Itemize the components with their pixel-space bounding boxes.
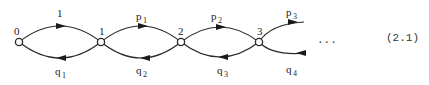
node-label-3: 3	[257, 25, 263, 37]
node-label-1: 1	[99, 25, 105, 37]
edge-3-out-forward	[259, 22, 304, 42]
arrow-right-icon	[56, 23, 66, 29]
node-0	[15, 38, 22, 45]
edge-label-backward-0-sub: 1	[62, 71, 66, 80]
node-3	[255, 38, 262, 45]
edge-3-2-backward	[181, 42, 259, 57]
edge-1-2-forward	[101, 26, 181, 42]
node-label-2: 2	[178, 25, 184, 37]
edge-label-backward-3: q	[286, 63, 292, 75]
node-label-0: 0	[14, 25, 20, 37]
edge-label-forward-1-sub: 1	[143, 16, 147, 25]
arrow-left-icon	[296, 50, 306, 56]
edge-in-3-backward	[259, 42, 306, 54]
continuation-ellipsis: ...	[317, 34, 337, 46]
edge-label-forward-0: 1	[57, 7, 63, 19]
edge-label-forward-3: p	[286, 6, 292, 18]
node-2	[177, 38, 184, 45]
arrow-left-icon	[218, 54, 228, 60]
edge-label-backward-0: q	[55, 65, 61, 77]
edge-label-backward-1-sub: 2	[143, 70, 147, 79]
edge-0-1-forward	[19, 26, 101, 42]
edge-label-forward-2-sub: 2	[218, 16, 222, 25]
edge-label-backward-2-sub: 3	[224, 70, 228, 79]
edge-label-backward-1: q	[136, 64, 142, 76]
edge-label-forward-2: p	[211, 10, 217, 22]
arrow-left-icon	[56, 55, 66, 61]
arrow-left-icon	[140, 55, 150, 61]
edge-label-backward-2: q	[217, 64, 223, 76]
node-1	[97, 38, 104, 45]
edge-label-forward-3-sub: 3	[293, 12, 297, 21]
edge-1-0-backward	[19, 42, 101, 58]
edge-2-3-forward	[181, 27, 259, 42]
edge-2-1-backward	[101, 42, 181, 58]
equation-number: (2.1)	[386, 32, 419, 44]
edge-label-backward-3-sub: 4	[293, 69, 297, 78]
markov-chain-diagram: 0 1 2 3 1 p 1 p 2 p 3 q 1 q 2 q 3 q 4 ..…	[0, 0, 429, 85]
edge-label-forward-1: p	[136, 10, 142, 22]
